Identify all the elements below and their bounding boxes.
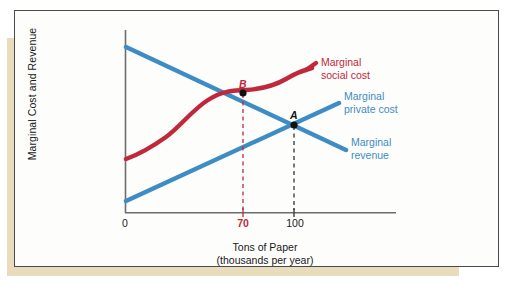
marginal-private-cost-label-line1: Marginal <box>344 90 398 103</box>
point-label-b: B <box>239 78 247 90</box>
marginal-social-cost-curve <box>126 68 312 159</box>
point-marker-a <box>290 121 297 128</box>
marginal-revenue-label-line1: Marginal <box>351 136 391 149</box>
x-tick-label-70: 70 <box>231 217 255 229</box>
marginal-social-cost-label-line1: Marginal <box>321 56 370 69</box>
y-axis-title: Marginal Cost and Revenue <box>26 14 38 174</box>
point-label-a: A <box>290 109 298 121</box>
x-tick-label-0: 0 <box>113 217 137 229</box>
marginal-revenue-label: Marginal revenue <box>351 136 391 161</box>
marginal-private-cost-label-line2: private cost <box>344 103 398 116</box>
marginal-private-cost-curve <box>126 103 339 201</box>
x-axis-title: Tons of Paper (thousands per year) <box>175 241 355 267</box>
x-axis-title-line2: (thousands per year) <box>175 254 355 267</box>
point-marker-b <box>239 89 246 96</box>
marginal-private-cost-label: Marginal private cost <box>344 90 398 115</box>
marginal-social-cost-label: Marginal social cost <box>321 56 370 81</box>
figure-root: Marginal Cost and Revenue Tons of Paper … <box>0 0 516 294</box>
marginal-social-cost-label-line2: social cost <box>321 69 370 82</box>
msc-label-leader <box>306 63 316 70</box>
x-axis-title-line1: Tons of Paper <box>175 241 355 254</box>
marginal-revenue-label-line2: revenue <box>351 149 391 162</box>
x-tick-label-100: 100 <box>280 217 310 229</box>
